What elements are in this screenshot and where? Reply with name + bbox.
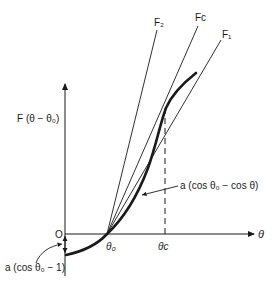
potential-curve	[66, 73, 196, 255]
line-f1	[107, 40, 221, 234]
theta0-label: θ₀	[106, 241, 116, 252]
y-axis-label: F (θ − θ₀)	[17, 113, 59, 124]
line-label-fc: Fc	[195, 12, 206, 23]
line-label-f2: F₂	[154, 17, 164, 28]
thetac-label: θc	[158, 241, 168, 252]
line-fc	[107, 26, 198, 234]
line-label-f1: F₁	[222, 29, 232, 40]
offset-leader	[36, 244, 62, 263]
origin-label: O	[55, 229, 63, 240]
offset-annotation: a (cos θ₀ − 1)	[5, 262, 65, 273]
curve-annotation: a (cos θ₀ − cos θ)	[180, 180, 258, 191]
diagram-canvas: F₂ Fc F₁ F (θ − θ₀) θ O θ₀ θc a (cos θ₀ …	[0, 0, 279, 288]
x-axis-label: θ	[258, 228, 264, 240]
curve-leader	[142, 186, 178, 195]
